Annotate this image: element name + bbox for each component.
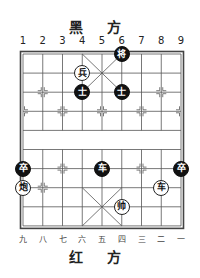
bottom-column-labels: 九八七六五四三二一 xyxy=(0,233,200,245)
column-label: 七 xyxy=(56,233,70,244)
column-label: 二 xyxy=(154,233,168,244)
top-column-labels: 123456789 xyxy=(0,35,200,47)
black-general-piece[interactable]: 将 xyxy=(114,46,130,62)
column-label: 9 xyxy=(174,35,188,46)
column-label: 3 xyxy=(56,35,70,46)
red-cannon-piece[interactable]: 炮 xyxy=(15,180,31,196)
column-label: 5 xyxy=(95,35,109,46)
column-label: 7 xyxy=(135,35,149,46)
red-side-label: 红 方 xyxy=(0,246,200,266)
red-general-piece[interactable]: 帅 xyxy=(114,199,130,215)
column-label: 一 xyxy=(174,233,188,244)
column-label: 三 xyxy=(135,233,149,244)
column-label: 2 xyxy=(36,35,50,46)
column-label: 八 xyxy=(36,233,50,244)
black-advisor-piece[interactable]: 士 xyxy=(114,84,130,100)
column-label: 6 xyxy=(115,35,129,46)
black-soldier-piece[interactable]: 卒 xyxy=(173,161,189,177)
column-label: 九 xyxy=(16,233,30,244)
column-label: 1 xyxy=(16,35,30,46)
column-label: 五 xyxy=(95,233,109,244)
black-chariot-piece[interactable]: 车 xyxy=(94,161,110,177)
column-label: 六 xyxy=(75,233,89,244)
column-label: 四 xyxy=(115,233,129,244)
black-soldier-piece[interactable]: 卒 xyxy=(15,161,31,177)
column-label: 8 xyxy=(154,35,168,46)
black-side-label: 黑 方 xyxy=(0,16,200,36)
column-label: 4 xyxy=(75,35,89,46)
red-chariot-piece[interactable]: 车 xyxy=(153,180,169,196)
